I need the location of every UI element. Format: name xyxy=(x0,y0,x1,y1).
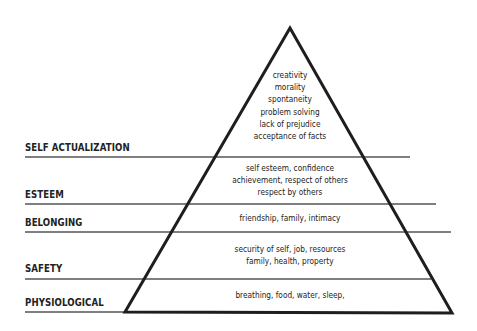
item: problem solving xyxy=(204,106,376,118)
level-label-physiological: PHYSIOLOGICAL xyxy=(25,296,104,308)
item: breathing, food, water, sleep, xyxy=(204,289,376,301)
level-label-belonging: BELONGING xyxy=(25,216,82,228)
level-items-belonging: friendship, family, intimacy xyxy=(204,212,376,224)
level-items-esteem: self esteem, confidence achievement, res… xyxy=(204,162,376,199)
item: morality xyxy=(204,81,376,93)
level-label-esteem: ESTEEM xyxy=(25,188,64,200)
item: friendship, family, intimacy xyxy=(204,212,376,224)
item: acceptance of facts xyxy=(204,130,376,142)
maslow-pyramid-diagram: SELF ACTUALIZATION ESTEEM BELONGING SAFE… xyxy=(0,0,477,331)
item: self esteem, confidence xyxy=(204,162,376,174)
item: security of self, job, resources xyxy=(204,243,376,255)
level-label-safety: SAFETY xyxy=(25,262,62,274)
item: achievement, respect of others xyxy=(204,174,376,186)
item: respect by others xyxy=(204,186,376,198)
item: creativity xyxy=(204,69,376,81)
level-items-physiological: breathing, food, water, sleep, xyxy=(204,289,376,301)
item: lack of prejudice xyxy=(204,118,376,130)
level-label-self-actualization: SELF ACTUALIZATION xyxy=(25,141,130,153)
level-items-self-actualization: creativity morality spontaneity problem … xyxy=(204,69,376,142)
item: spontaneity xyxy=(204,93,376,105)
item: family, health, property xyxy=(204,255,376,267)
level-items-safety: security of self, job, resources family,… xyxy=(204,243,376,267)
